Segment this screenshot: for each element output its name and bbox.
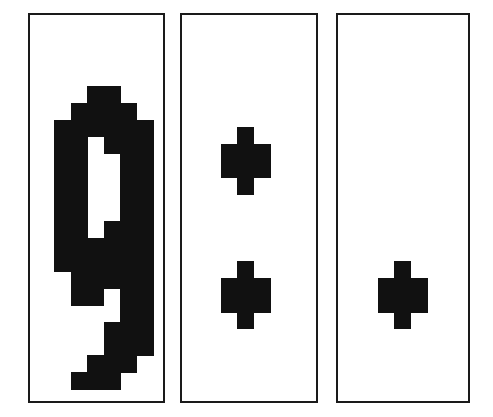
shape-pixel: [137, 271, 154, 288]
shape-pixel: [120, 103, 137, 120]
shape-pixel: [87, 271, 104, 288]
shape-pixel: [378, 295, 395, 312]
shape-pixel: [87, 372, 104, 389]
shape-pixel: [137, 120, 154, 137]
shape-pixel: [120, 187, 137, 204]
shape-pixel: [71, 271, 88, 288]
shape-pixel: [137, 238, 154, 255]
shape-pixel: [254, 295, 271, 312]
shape-pixel: [87, 288, 104, 305]
shape-pixel: [137, 170, 154, 187]
shape-pixel: [237, 312, 254, 329]
shape-pixel: [87, 120, 104, 137]
shape-pixel: [120, 339, 137, 356]
two-crosses-cells: [221, 127, 271, 330]
shape-pixel: [71, 221, 88, 238]
shape-pixel: [411, 295, 428, 312]
shape-pixel: [71, 288, 88, 305]
shape-pixel: [120, 271, 137, 288]
shape-pixel: [104, 339, 121, 356]
shape-pixel: [120, 322, 137, 339]
shape-pixel: [137, 305, 154, 322]
nine-glyph-cells: [54, 86, 154, 389]
shape-pixel: [54, 221, 71, 238]
shape-pixel: [137, 322, 154, 339]
shape-pixel: [120, 288, 137, 305]
shape-pixel: [137, 255, 154, 272]
shape-pixel: [221, 295, 238, 312]
shape-pixel: [394, 295, 411, 312]
shape-pixel: [54, 238, 71, 255]
shape-pixel: [394, 261, 411, 278]
single-cross: [338, 15, 468, 401]
shape-pixel: [237, 127, 254, 144]
shape-pixel: [394, 278, 411, 295]
shape-pixel: [254, 160, 271, 177]
shape-pixel: [71, 170, 88, 187]
shape-pixel: [120, 305, 137, 322]
shape-pixel: [104, 120, 121, 137]
shape-pixel: [104, 238, 121, 255]
shape-pixel: [120, 221, 137, 238]
shape-pixel: [104, 255, 121, 272]
shape-pixel: [54, 137, 71, 154]
shape-pixel: [104, 221, 121, 238]
shape-pixel: [120, 120, 137, 137]
shape-pixel: [237, 160, 254, 177]
shape-pixel: [54, 170, 71, 187]
shape-pixel: [120, 355, 137, 372]
shape-pixel: [87, 86, 104, 103]
shape-pixel: [411, 278, 428, 295]
shape-pixel: [71, 120, 88, 137]
shape-pixel: [221, 278, 238, 295]
single-cross-cells: [378, 261, 428, 329]
figure-root: [0, 0, 493, 417]
shape-pixel: [87, 255, 104, 272]
shape-pixel: [54, 204, 71, 221]
shape-pixel: [71, 187, 88, 204]
shape-pixel: [378, 278, 395, 295]
shape-pixel: [254, 278, 271, 295]
shape-pixel: [71, 154, 88, 171]
shape-pixel: [137, 204, 154, 221]
shape-pixel: [237, 144, 254, 161]
shape-pixel: [71, 255, 88, 272]
panel-1: [28, 13, 165, 403]
shape-pixel: [120, 170, 137, 187]
shape-pixel: [237, 295, 254, 312]
shape-pixel: [394, 312, 411, 329]
shape-pixel: [120, 255, 137, 272]
shape-pixel: [237, 177, 254, 194]
shape-pixel: [137, 288, 154, 305]
shape-pixel: [104, 137, 121, 154]
shape-pixel: [137, 154, 154, 171]
shape-pixel: [104, 372, 121, 389]
shape-pixel: [120, 154, 137, 171]
shape-pixel: [120, 238, 137, 255]
nine-glyph: [30, 15, 163, 401]
shape-pixel: [71, 238, 88, 255]
shape-pixel: [54, 255, 71, 272]
shape-pixel: [54, 187, 71, 204]
shape-pixel: [137, 187, 154, 204]
shape-pixel: [104, 86, 121, 103]
shape-pixel: [221, 160, 238, 177]
shape-pixel: [104, 322, 121, 339]
panel-3: [336, 13, 470, 403]
shape-pixel: [54, 120, 71, 137]
shape-pixel: [71, 372, 88, 389]
shape-pixel: [137, 221, 154, 238]
shape-pixel: [237, 261, 254, 278]
panel-2: [180, 13, 318, 403]
shape-pixel: [104, 355, 121, 372]
shape-pixel: [120, 204, 137, 221]
shape-pixel: [120, 137, 137, 154]
shape-pixel: [137, 339, 154, 356]
shape-pixel: [254, 144, 271, 161]
shape-pixel: [237, 278, 254, 295]
two-crosses: [182, 15, 316, 401]
shape-pixel: [71, 103, 88, 120]
shape-pixel: [71, 137, 88, 154]
shape-pixel: [87, 238, 104, 255]
shape-pixel: [104, 271, 121, 288]
